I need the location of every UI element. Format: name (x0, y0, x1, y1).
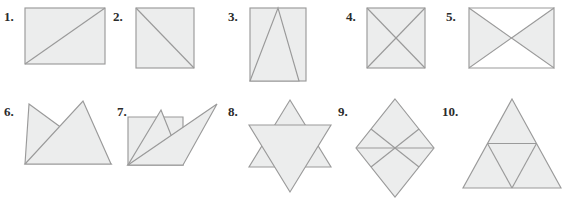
figure-1-label: 1. (4, 10, 14, 23)
geometry-figures-worksheet: 1. 2. 3. 4. 5. (0, 0, 567, 206)
figure-6: 6. (0, 95, 115, 206)
figure-10-shape (462, 98, 562, 190)
figure-3: 3. (225, 0, 343, 92)
figure-6-label: 6. (4, 105, 14, 118)
figure-8-shape (247, 98, 333, 194)
figure-2-label: 2. (113, 10, 123, 23)
figure-9-shape (355, 98, 435, 199)
figure-4-label: 4. (346, 10, 356, 23)
figure-8: 8. (225, 95, 335, 206)
figure-3-shape (249, 7, 307, 82)
figure-8-label: 8. (228, 105, 238, 118)
figure-1-shape (24, 7, 106, 65)
figure-9-label: 9. (338, 105, 348, 118)
figure-4: 4. (343, 0, 443, 92)
figure-5-label: 5. (446, 10, 456, 23)
figure-7: 7. (115, 95, 225, 206)
figure-6-shape (22, 100, 112, 170)
figure-9: 9. (335, 95, 440, 206)
figure-5: 5. (443, 0, 567, 92)
figure-7-shape (125, 102, 220, 170)
figure-5-shape (468, 7, 555, 69)
figure-2: 2. (110, 0, 225, 92)
figure-2-shape (135, 7, 195, 69)
figure-1: 1. (0, 0, 110, 92)
figure-10: 10. (440, 95, 567, 206)
figure-4-shape (366, 7, 426, 69)
figure-3-label: 3. (228, 10, 238, 23)
figure-10-label: 10. (442, 105, 458, 118)
